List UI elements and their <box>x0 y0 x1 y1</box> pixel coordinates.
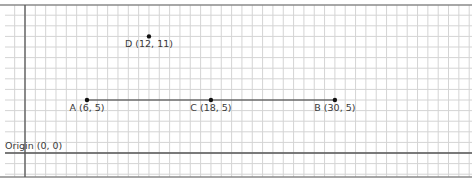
axes <box>5 5 472 177</box>
point-label-a: A (6, 5) <box>69 102 104 113</box>
coordinate-grid: A (6, 5)C (18, 5)B (30, 5)D (12, 11) Ori… <box>0 0 475 182</box>
points: A (6, 5)C (18, 5)B (30, 5)D (12, 11) <box>69 34 355 113</box>
grid-lines <box>0 5 472 177</box>
point-label-c: C (18, 5) <box>190 102 231 113</box>
point-label-b: B (30, 5) <box>314 102 355 113</box>
point-label-d: D (12, 11) <box>125 38 173 49</box>
origin-label: Origin (0, 0) <box>5 140 62 151</box>
